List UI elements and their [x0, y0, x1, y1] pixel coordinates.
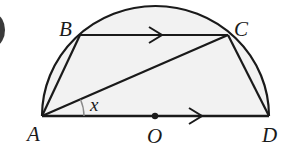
centre-point-O [152, 113, 158, 119]
diagram-canvas: B C A O D x [0, 0, 296, 151]
label-angle-x: x [89, 94, 99, 115]
question-marker-icon [0, 15, 5, 45]
label-O: O [147, 124, 162, 148]
label-A: A [25, 122, 40, 146]
label-B: B [59, 17, 72, 41]
label-D: D [261, 123, 277, 147]
geometry-figure: B C A O D x [0, 0, 296, 151]
label-C: C [234, 17, 249, 41]
